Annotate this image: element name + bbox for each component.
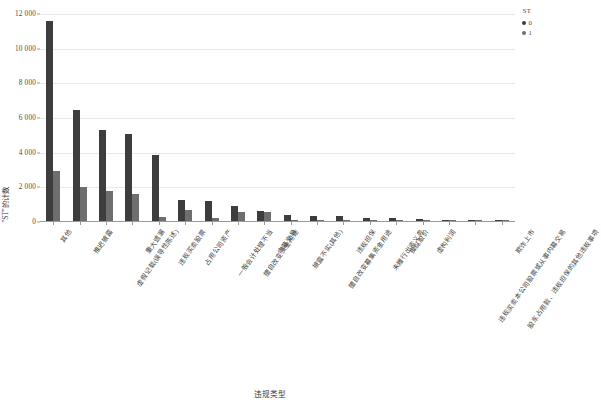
bar-series-0[interactable] [257,211,264,221]
x-axis-tick-mark [159,222,160,225]
x-axis-tick-label: 披露不实(其他) [312,228,344,270]
x-axis-tick-mark [53,222,54,225]
x-axis-tick-mark [502,222,503,225]
bar-group[interactable] [462,13,488,221]
x-axis-tick-mark [212,222,213,225]
legend-swatch-icon [522,21,526,25]
x-axis-tick-mark [449,222,450,225]
bar-group[interactable] [198,13,224,221]
x-axis-tick-mark [185,222,186,225]
x-axis-tick-mark [370,222,371,225]
bar-series-0[interactable] [152,155,159,221]
legend-item-label: 0 [529,18,532,29]
x-axis-tick-label: 违规买卖本公司股票或从事内幕交易 [498,228,568,324]
legend-item-label: 1 [529,28,532,39]
bar-group[interactable] [330,13,356,221]
x-axis-tick-mark [264,222,265,225]
legend: ST 01 [522,6,532,39]
bar-group[interactable] [357,13,383,221]
bar-series-0[interactable] [178,200,185,221]
bar-group[interactable] [251,13,277,221]
bar-group[interactable] [172,13,198,221]
bar-series-1[interactable] [132,194,139,221]
x-axis-tick-mark [132,222,133,225]
x-axis-tick-mark [423,222,424,225]
bar-series-1[interactable] [264,212,271,221]
bar-series-0[interactable] [205,201,212,221]
bar-series-1[interactable] [185,210,192,221]
x-axis-tick-mark [80,222,81,225]
legend-swatch-icon [522,31,526,35]
y-axis-tick-label: 12 000 [15,10,36,18]
x-axis-tick-mark [291,222,292,225]
legend-title: ST [522,6,532,17]
bar-series-1[interactable] [53,171,60,221]
bar-group[interactable] [304,13,330,221]
bar-series-1[interactable] [106,191,113,221]
y-axis-tick-label: 10 000 [15,45,36,53]
bar-series-0[interactable] [231,206,238,221]
bar-series-0[interactable] [99,130,106,221]
x-axis-tick-label: 推迟披露 [93,228,115,255]
bar-series-0[interactable] [46,21,53,221]
x-axis-tick-label: 内幕交易 [278,228,300,255]
x-axis-tick-mark [396,222,397,225]
bar-group[interactable] [66,13,92,221]
bar-group[interactable] [93,13,119,221]
bar-group[interactable] [489,13,515,221]
x-axis-tick-label: 虚构利润 [436,228,458,255]
legend-items: 01 [522,18,532,39]
bar-group[interactable] [119,13,145,221]
plot-area: 02 0004 0006 0008 00010 00012 000 其他推迟披露… [40,14,515,222]
y-axis-tick-label: 8 000 [19,79,36,87]
y-axis-tick-label: 0 [32,218,36,226]
bar-series-0[interactable] [73,110,80,221]
x-axis-tick-mark [317,222,318,225]
bar-series-0[interactable] [125,134,132,221]
y-axis-tick-label: 2 000 [19,183,36,191]
x-axis-tick-label: 占用公司资产 [204,228,234,266]
bar-series-1[interactable] [238,212,245,221]
x-axis-tick-mark [343,222,344,225]
x-axis-tick-label: 其他 [60,228,74,243]
bar-group[interactable] [40,13,66,221]
bar-group[interactable] [409,13,435,221]
x-axis-tick-mark [475,222,476,225]
x-axis-tick-label: 股东占用款、违规担保的其他违规事项 [527,228,601,329]
bar-series-1[interactable] [80,187,87,221]
bar-group[interactable] [146,13,172,221]
x-axis-line [40,221,515,222]
bar-group[interactable] [436,13,462,221]
x-axis-tick-label: 欺诈上市 [515,228,537,255]
x-axis-tick-mark [106,222,107,225]
bar-group[interactable] [383,13,409,221]
y-axis-tick-label: 6 000 [19,114,36,122]
y-axis-title: "ST"的计数 [0,160,10,250]
y-axis-tick-label: 4 000 [19,149,36,157]
legend-item[interactable]: 1 [522,28,532,39]
x-axis-tick-mark [238,222,239,225]
x-axis-title: 违规类型 [0,388,540,399]
bar-group[interactable] [278,13,304,221]
legend-item[interactable]: 0 [522,18,532,29]
bar-group[interactable] [225,13,251,221]
